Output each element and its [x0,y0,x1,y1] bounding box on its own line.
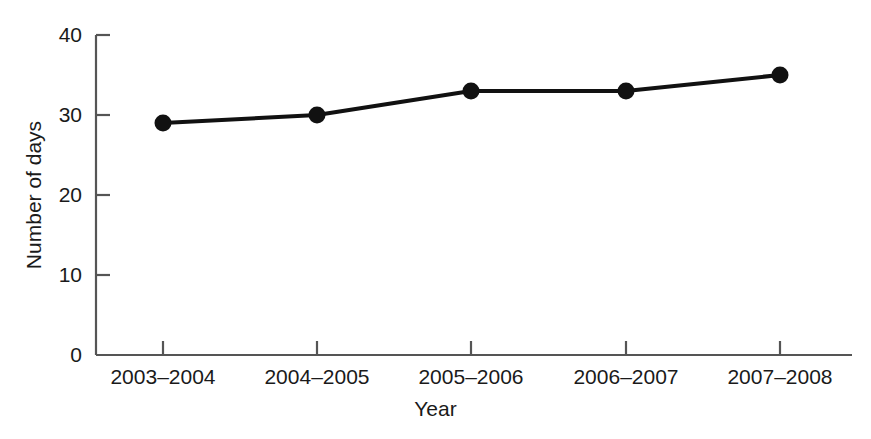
x-tick-label-2006-2007: 2006–2007 [536,366,716,387]
y-axis-title: Number of days [19,15,49,375]
x-tick-label-2004-2005: 2004–2005 [227,366,407,387]
data-point-3 [463,83,480,100]
x-axis-title: Year [0,398,871,420]
data-point-1 [155,115,172,132]
data-point-2 [309,107,326,124]
data-point-markers [155,67,789,132]
line-chart-figure: 40 30 20 10 0 2003–2004 2004–2005 2005–2… [0,0,871,439]
x-tick-label-2003-2004: 2003–2004 [73,366,253,387]
data-point-4 [618,83,635,100]
x-tick-label-2005-2006: 2005–2006 [381,366,561,387]
data-point-5 [772,67,789,84]
x-tick-label-2007-2008: 2007–2008 [690,366,870,387]
